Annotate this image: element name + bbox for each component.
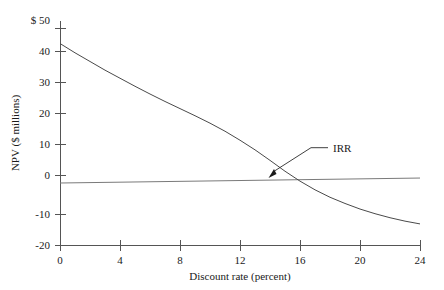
x-tick-label-24: 24: [415, 254, 427, 266]
y-tick-label-50: $ 50: [31, 14, 51, 26]
y-tick-label-30: 30: [39, 76, 51, 88]
x-tick-label-16: 16: [295, 254, 307, 266]
y-tick-label-neg10: -10: [35, 208, 50, 220]
irr-annotation: IRR: [269, 142, 353, 178]
y-tick-label-40: 40: [39, 45, 51, 57]
y-tick-label-neg20: -20: [35, 239, 50, 251]
y-tick-label-10: 10: [39, 138, 51, 150]
y-axis-tick-labels: $ 50 40 30 20 10 0 -10 -20: [31, 14, 51, 251]
chart-canvas: $ 50 40 30 20 10 0 -10 -20 0 4 8 12 16 2…: [0, 0, 444, 290]
y-tick-label-20: 20: [39, 107, 51, 119]
x-tick-label-4: 4: [117, 254, 123, 266]
x-tick-label-12: 12: [235, 254, 246, 266]
x-tick-label-20: 20: [355, 254, 367, 266]
x-tick-label-8: 8: [177, 254, 183, 266]
npv-profile-chart: $ 50 40 30 20 10 0 -10 -20 0 4 8 12 16 2…: [0, 0, 444, 290]
irr-leader-line: [275, 148, 329, 171]
x-axis-tick-labels: 0 4 8 12 16 20 24: [57, 254, 426, 266]
irr-label: IRR: [333, 142, 352, 154]
npv-curve: [60, 44, 420, 224]
x-tick-label-0: 0: [57, 254, 63, 266]
x-axis-title: Discount rate (percent): [189, 270, 291, 283]
y-tick-label-0: 0: [45, 169, 51, 181]
zero-reference-line: [60, 178, 420, 183]
y-axis-title: NPV ($ millions): [9, 95, 22, 172]
